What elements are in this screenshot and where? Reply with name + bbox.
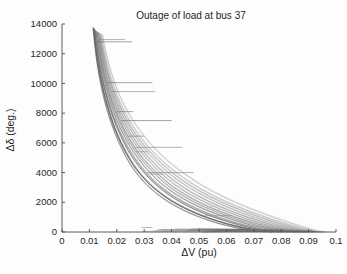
y-tick-label-1: 2000 <box>36 196 57 207</box>
x-tick-label-10: 0.1 <box>329 235 342 246</box>
chart-figure: Outage of load at bus 37 ΔV (pu) Δδ (deg… <box>0 0 347 274</box>
x-tick-label-0: 0 <box>59 235 64 246</box>
x-tick-label-4: 0.04 <box>162 235 181 246</box>
chart-title: Outage of load at bus 37 <box>136 10 246 21</box>
y-tick-label-0: 0 <box>52 226 57 237</box>
data-curves <box>93 28 328 232</box>
x-tick-label-1: 0.01 <box>80 235 99 246</box>
y-tick-label-4: 8000 <box>36 107 57 118</box>
x-tick-label-2: 0.02 <box>108 235 127 246</box>
curve-curve-13 <box>101 34 321 232</box>
curve-curve-14-echo <box>103 35 328 232</box>
x-axis-title: ΔV (pu) <box>181 246 217 258</box>
y-tick-label-7: 14000 <box>31 18 57 29</box>
curve-curve-10-echo <box>97 32 297 232</box>
curve-curve-6 <box>98 33 308 232</box>
x-tick-label-9: 0.09 <box>299 235 318 246</box>
chart-plot-area: Outage of load at bus 37 ΔV (pu) Δδ (deg… <box>0 0 347 274</box>
y-tick-label-6: 12000 <box>31 48 57 59</box>
x-tick-label-5: 0.05 <box>190 235 209 246</box>
y-tick-label-2: 4000 <box>36 167 57 178</box>
x-tick-label-3: 0.03 <box>135 235 154 246</box>
curve-curve-6-echo <box>99 33 312 232</box>
x-tick-label-8: 0.08 <box>272 235 291 246</box>
y-axis-ticks: 02000400060008000100001200014000 <box>31 18 65 237</box>
y-tick-label-5: 10000 <box>31 78 57 89</box>
y-axis-title: Δδ (deg.) <box>4 108 16 151</box>
y-tick-label-3: 6000 <box>36 137 57 148</box>
x-tick-label-6: 0.06 <box>217 235 236 246</box>
x-tick-label-7: 0.07 <box>245 235 264 246</box>
